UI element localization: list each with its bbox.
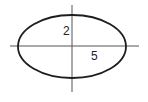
semi-minor-axis-label: 2 xyxy=(63,24,70,38)
ellipse-diagram: 2 5 xyxy=(0,0,148,102)
semi-major-axis-label: 5 xyxy=(91,49,98,63)
